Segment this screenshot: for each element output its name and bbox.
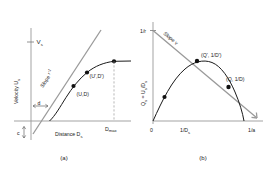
- panel-a: Vs Sloper-1 (U',D') (U,D) Dmax d: [0, 0, 135, 172]
- panel-a-y-axis-label: Velocity Us: [13, 79, 21, 104]
- panel-b-caption: (b): [199, 155, 206, 161]
- panel-a-d-label: d: [38, 100, 41, 106]
- panel-b-point-plain-label: (Q, 1/D): [226, 76, 245, 82]
- panel-b-point-primed-label: (Q', 1/D'): [201, 52, 222, 58]
- panel-b-point-primed: [195, 59, 199, 63]
- panel-b-xtick-mid: 1/Ds: [180, 127, 190, 135]
- panel-b-point-low: [162, 95, 166, 99]
- panel-a-caption: (a): [60, 155, 67, 161]
- panel-b-flow-curve: [153, 61, 244, 121]
- panel-b-xtick-zero: 0: [150, 127, 153, 133]
- panel-a-c-label: c: [17, 130, 20, 136]
- panel-a-point-primed-label: (U',D'): [90, 73, 105, 79]
- svg-text:Sloper-1: Sloper-1: [37, 67, 55, 89]
- panel-b-chord-line: [153, 31, 257, 119]
- panel-b-svg: 1/r Slope v (Q', 1/D') (Q, 1/D) 0 1/Ds 1…: [135, 0, 270, 172]
- panel-a-slope-label: Sloper-1: [37, 67, 55, 89]
- panel-a-vs-label: Vs: [37, 38, 43, 47]
- svg-text:Qs = Us/Ds: Qs = Us/Ds: [140, 81, 148, 106]
- svg-text:Slope v: Slope v: [162, 30, 179, 46]
- panel-a-point-plain-label: (U,D): [77, 91, 90, 97]
- panel-b-slope-label: Slope v: [162, 30, 179, 46]
- panel-b-point-plain: [226, 85, 230, 89]
- panel-a-dmax-label: Dmax: [105, 126, 118, 134]
- panel-b-y-axis-label: Qs = Us/Ds: [140, 81, 148, 106]
- panel-a-x-axis-label: Distance Ds: [55, 131, 82, 139]
- panel-a-point-primed: [85, 70, 89, 74]
- panel-b: 1/r Slope v (Q', 1/D') (Q, 1/D) 0 1/Ds 1…: [135, 0, 270, 172]
- figure-container: Vs Sloper-1 (U',D') (U,D) Dmax d: [0, 0, 270, 172]
- svg-text:Velocity Us: Velocity Us: [13, 79, 21, 104]
- panel-b-xtick-end: 1/a: [248, 127, 255, 133]
- panel-a-svg: Vs Sloper-1 (U',D') (U,D) Dmax d: [0, 0, 135, 172]
- panel-a-point-plain: [71, 84, 75, 88]
- panel-b-inv-r-label: 1/r: [140, 28, 146, 34]
